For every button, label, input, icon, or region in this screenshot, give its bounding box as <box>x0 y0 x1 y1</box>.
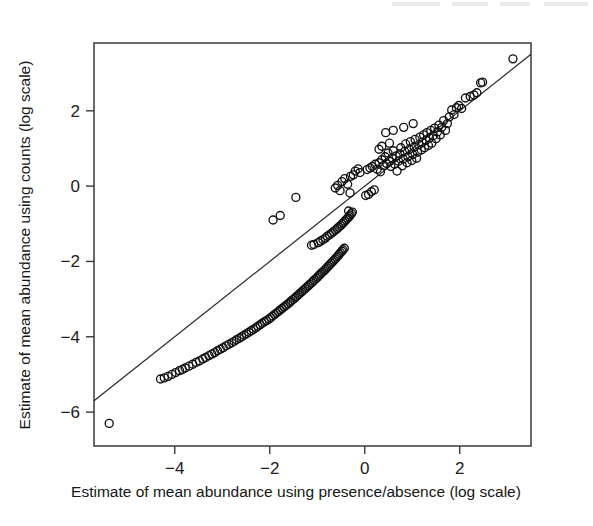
plot-frame <box>94 43 531 446</box>
data-point <box>409 120 417 128</box>
data-point <box>400 123 408 131</box>
data-point <box>389 126 397 134</box>
scan-noise-artifacts <box>392 2 588 6</box>
y-tick-label-0: 2 <box>71 102 80 121</box>
y-tick-label-4: −6 <box>61 403 80 422</box>
data-point <box>385 139 393 147</box>
x-tick-label-3: 2 <box>455 459 464 478</box>
data-point <box>346 189 354 197</box>
figure-page: −4−20220−2−4−6 Estimate of mean abundanc… <box>0 0 593 526</box>
data-point <box>509 55 517 63</box>
data-point <box>105 419 113 427</box>
y-tick-label-1: 0 <box>71 177 80 196</box>
x-tick-label-0: −4 <box>165 459 184 478</box>
data-point <box>382 129 390 137</box>
data-point <box>292 193 300 201</box>
x-axis-title: Estimate of mean abundance using presenc… <box>71 483 521 500</box>
y-tick-label-2: −2 <box>61 252 80 271</box>
y-axis-title: Estimate of mean abundance using counts … <box>16 61 33 430</box>
data-point-series <box>105 55 517 428</box>
y-tick-label-3: −4 <box>61 328 80 347</box>
scatter-plot-figure: −4−20220−2−4−6 Estimate of mean abundanc… <box>0 0 593 526</box>
x-tick-label-1: −2 <box>260 459 279 478</box>
data-point <box>461 94 469 102</box>
x-tick-label-2: 0 <box>360 459 369 478</box>
data-point <box>276 212 284 220</box>
